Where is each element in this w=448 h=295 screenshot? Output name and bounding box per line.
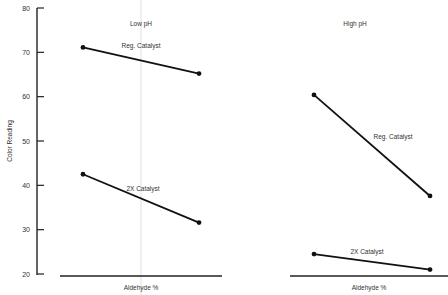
- data-point: [428, 267, 433, 272]
- y-tick-label: 60: [22, 93, 30, 100]
- panels: Low pHAldehyde %Reg. Catalyst2X Catalyst…: [60, 20, 448, 292]
- x-axis-label: Aldehyde %: [352, 284, 387, 292]
- series-label: 2X Catalyst: [350, 248, 383, 256]
- y-tick-label: 30: [22, 226, 30, 233]
- data-point: [197, 220, 202, 225]
- chart-canvas: 20304050607080 Color Reading Low pHAldeh…: [0, 0, 448, 295]
- y-tick-label: 50: [22, 138, 30, 145]
- y-tick-label: 40: [22, 182, 30, 189]
- data-point: [312, 252, 317, 257]
- y-tick-label: 70: [22, 49, 30, 56]
- y-axis-label: Color Reading: [6, 120, 14, 162]
- panel-title: High pH: [343, 20, 367, 28]
- interaction-plot: 20304050607080 Color Reading Low pHAldeh…: [0, 0, 448, 295]
- data-point: [428, 194, 433, 199]
- panel-high-ph: High pHAldehyde %Reg. Catalyst2X Catalys…: [290, 20, 448, 292]
- data-point: [197, 71, 202, 76]
- y-axis: 20304050607080: [22, 5, 44, 278]
- series-line: [314, 95, 430, 196]
- data-point: [81, 45, 86, 50]
- series-label: Reg. Catalyst: [121, 42, 160, 50]
- series-label: Reg. Catalyst: [373, 133, 412, 141]
- series-label: 2X Catalyst: [126, 185, 159, 193]
- y-tick-label: 20: [22, 271, 30, 278]
- y-tick-label: 80: [22, 5, 30, 12]
- panel-title: Low pH: [130, 20, 152, 28]
- data-point: [312, 92, 317, 97]
- x-axis-label: Aldehyde %: [124, 284, 159, 292]
- series-line: [314, 254, 430, 270]
- data-point: [81, 172, 86, 177]
